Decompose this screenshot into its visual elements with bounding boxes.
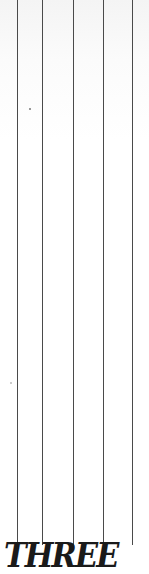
vertical-line-3	[73, 0, 74, 545]
title-text: THREE	[4, 538, 137, 574]
vertical-line-4	[103, 0, 104, 545]
vertical-line-2	[42, 0, 43, 545]
speck	[29, 108, 31, 110]
speck	[10, 382, 12, 384]
vertical-line-1	[17, 0, 18, 545]
vertical-line-5	[132, 0, 133, 545]
